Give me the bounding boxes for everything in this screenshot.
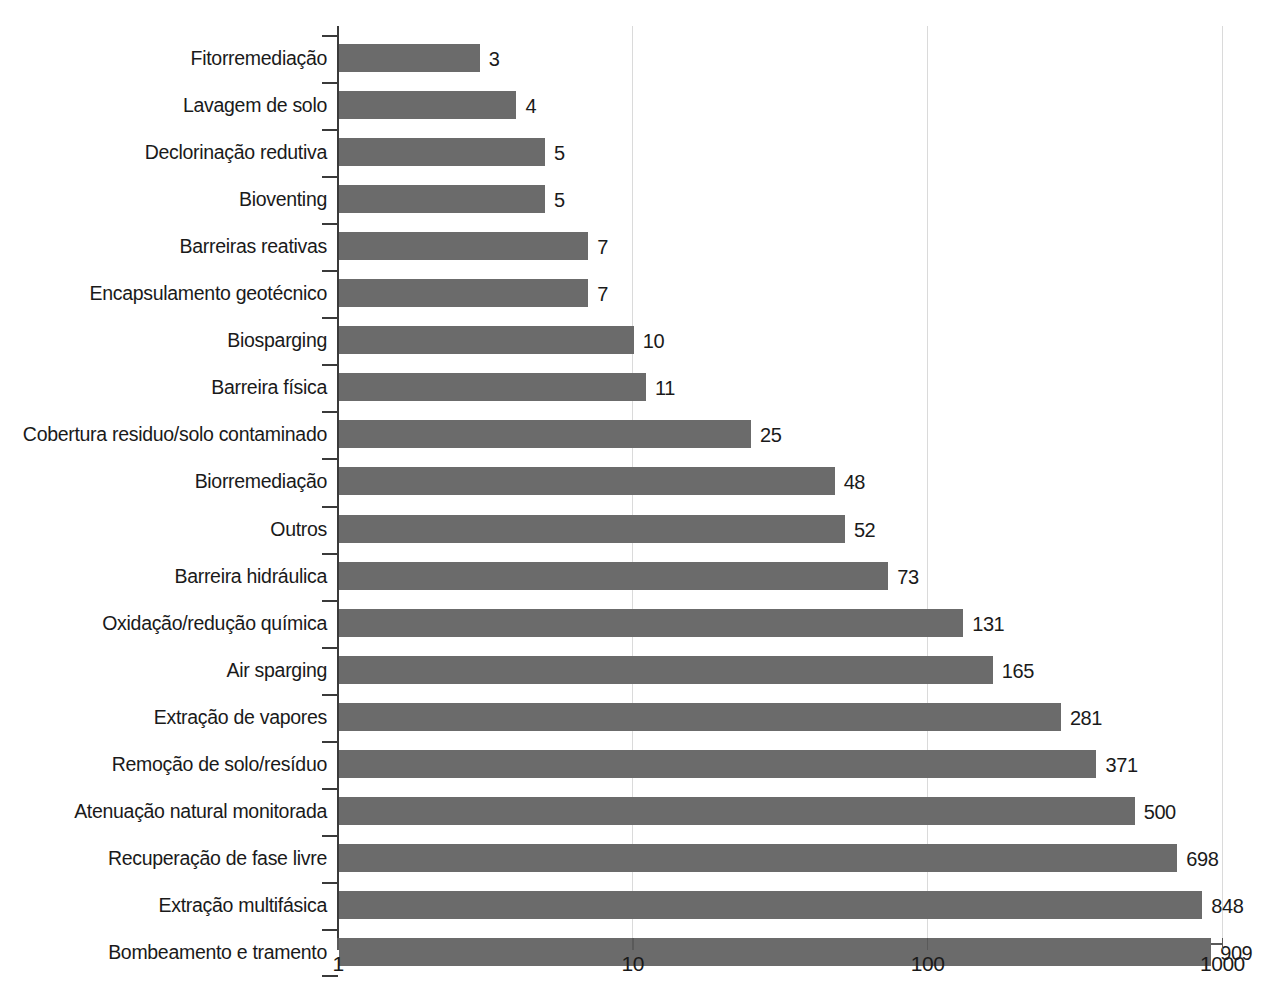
bar-row: Fitorremediação3 [0, 44, 1281, 72]
category-label: Oxidação/redução química [0, 614, 327, 634]
bar [339, 91, 516, 119]
bar-row: Atenuação natural monitorada500 [0, 797, 1281, 825]
bar-row: Bioventing5 [0, 185, 1281, 213]
bar-row: Lavagem de solo4 [0, 91, 1281, 119]
bar-value-label: 11 [655, 378, 675, 398]
category-label: Barreira hidráulica [0, 567, 327, 587]
x-tick-mark-1 [337, 938, 339, 950]
bar-row: Biorremediação48 [0, 467, 1281, 495]
category-label: Biosparging [0, 331, 327, 351]
bar-chart: Fitorremediação3Lavagem de solo4Declorin… [0, 0, 1281, 1001]
y-tick-mark [322, 176, 338, 178]
y-tick-mark [322, 741, 338, 743]
bar-row: Barreira física11 [0, 373, 1281, 401]
x-tick-mark-1000 [1222, 938, 1224, 950]
x-tick-label-1: 1 [332, 952, 343, 976]
category-label: Barreiras reativas [0, 237, 327, 257]
category-label: Encapsulamento geotécnico [0, 284, 327, 304]
bar [339, 420, 751, 448]
plot-area: Fitorremediação3Lavagem de solo4Declorin… [0, 0, 1281, 1001]
bar-row: Air sparging165 [0, 656, 1281, 684]
bar-value-label: 10 [643, 331, 664, 351]
category-label: Cobertura residuo/solo contaminado [0, 425, 327, 445]
y-tick-mark [322, 600, 338, 602]
bar-row: Cobertura residuo/solo contaminado25 [0, 420, 1281, 448]
y-tick-mark [322, 929, 338, 931]
y-tick-mark [322, 694, 338, 696]
y-tick-mark [322, 788, 338, 790]
bar-value-label: 3 [489, 49, 500, 69]
y-tick-mark [322, 364, 338, 366]
category-label: Lavagem de solo [0, 96, 327, 116]
bar-value-label: 131 [972, 614, 1004, 634]
bar-value-label: 371 [1105, 755, 1137, 775]
bar-row: Barreira hidráulica73 [0, 562, 1281, 590]
category-label: Recuperação de fase livre [0, 849, 327, 869]
bar-value-label: 7 [597, 284, 608, 304]
bar-row: Extração multifásica848 [0, 891, 1281, 919]
category-label: Declorinação redutiva [0, 143, 327, 163]
category-label: Outros [0, 520, 327, 540]
bar-row: Extração de vapores281 [0, 703, 1281, 731]
y-tick-mark [322, 506, 338, 508]
bar-value-label: 5 [554, 190, 565, 210]
bar [339, 467, 835, 495]
x-tick-label-10: 10 [622, 952, 644, 976]
bar-value-label: 7 [597, 237, 608, 257]
bar [339, 232, 588, 260]
bar-row: Outros52 [0, 515, 1281, 543]
y-tick-mark [322, 882, 338, 884]
bar [339, 891, 1202, 919]
bar-row: Declorinação redutiva5 [0, 138, 1281, 166]
category-label: Barreira física [0, 378, 327, 398]
y-tick-mark [322, 411, 338, 413]
bar-value-label: 52 [854, 520, 875, 540]
bar-row: Biosparging10 [0, 326, 1281, 354]
bar-value-label: 25 [760, 425, 781, 445]
bar-value-label: 281 [1070, 708, 1102, 728]
x-tick-mark-100 [927, 938, 929, 950]
y-tick-mark [322, 835, 338, 837]
x-tick-mark-10 [632, 938, 634, 950]
y-tick-mark [322, 82, 338, 84]
bar-value-label: 48 [844, 472, 865, 492]
category-label: Remoção de solo/resíduo [0, 755, 327, 775]
bar-value-label: 73 [897, 567, 918, 587]
bar [339, 656, 993, 684]
category-label: Atenuação natural monitorada [0, 802, 327, 822]
bar-row: Barreiras reativas7 [0, 232, 1281, 260]
bar [339, 185, 545, 213]
bar [339, 279, 588, 307]
y-tick-mark [322, 270, 338, 272]
category-label: Extração de vapores [0, 708, 327, 728]
category-label: Bombeamento e tramento [0, 943, 327, 963]
y-tick-mark [322, 458, 338, 460]
bar-row: Encapsulamento geotécnico7 [0, 279, 1281, 307]
bar [339, 562, 888, 590]
bar-value-label: 5 [554, 143, 565, 163]
y-tick-mark [322, 553, 338, 555]
bar [339, 609, 963, 637]
bar [339, 938, 1211, 966]
bar-value-label: 500 [1144, 802, 1176, 822]
y-tick-mark [322, 35, 338, 37]
bar [339, 797, 1135, 825]
category-label: Fitorremediação [0, 49, 327, 69]
bar [339, 844, 1177, 872]
y-tick-mark [322, 317, 338, 319]
category-label: Air sparging [0, 661, 327, 681]
bar [339, 373, 646, 401]
x-tick-label-1000: 1000 [1200, 952, 1245, 976]
bar-value-label: 698 [1186, 849, 1218, 869]
bar-value-label: 165 [1002, 661, 1034, 681]
bar [339, 138, 545, 166]
bar-row: Oxidação/redução química131 [0, 609, 1281, 637]
category-label: Biorremediação [0, 472, 327, 492]
bar [339, 703, 1061, 731]
bar [339, 44, 480, 72]
category-label: Extração multifásica [0, 896, 327, 916]
y-tick-mark [322, 223, 338, 225]
bar-row: Remoção de solo/resíduo371 [0, 750, 1281, 778]
x-tick-label-100: 100 [911, 952, 945, 976]
y-tick-mark [322, 129, 338, 131]
